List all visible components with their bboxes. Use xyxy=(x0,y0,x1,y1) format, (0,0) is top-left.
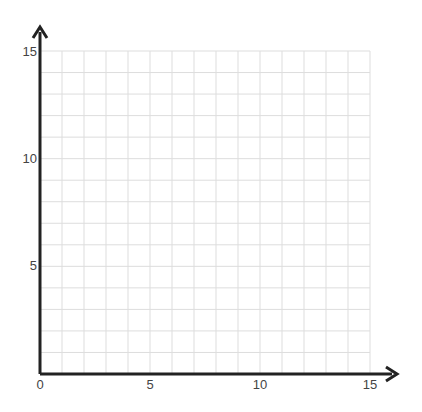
x-tick-label: 10 xyxy=(253,377,267,392)
y-tick-labels: 5 10 15 xyxy=(23,44,37,273)
grid-lines xyxy=(40,51,370,374)
blank-coordinate-grid: 0 5 10 15 5 10 15 xyxy=(0,0,422,412)
y-tick-label: 15 xyxy=(23,44,37,59)
x-tick-label: 0 xyxy=(36,377,43,392)
y-tick-label: 10 xyxy=(23,151,37,166)
x-tick-label: 15 xyxy=(363,377,377,392)
x-tick-labels: 0 5 10 15 xyxy=(36,377,377,392)
axes xyxy=(33,27,397,381)
y-tick-label: 5 xyxy=(30,258,37,273)
x-tick-label: 5 xyxy=(146,377,153,392)
